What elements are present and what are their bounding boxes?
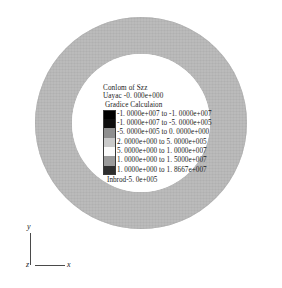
legend-band-label: -1. 0000e+007 to -5. 0000e+005	[116, 119, 212, 128]
contour-plot-screenshot: Conlom of Szz Uayac -0. 000e+000 Gradice…	[0, 0, 282, 288]
legend-band-row: 5. 0000e+000 to 1. 0000e+007	[103, 147, 235, 156]
legend-band-row: -1. 0000e+007 to -1. 0000e+007	[103, 110, 235, 119]
legend-band-swatch	[103, 138, 116, 147]
axis-line-y	[30, 233, 31, 265]
axis-label-y: y	[27, 223, 31, 231]
legend-band-swatch	[103, 128, 116, 137]
legend-band-row: 2. 0000e+000 to 5. 0000e+005	[103, 138, 235, 147]
legend-band-row: 1. 0000e+000 to 1. 8667e+007	[103, 166, 235, 175]
legend-band-label: 2. 0000e+000 to 5. 0000e+005	[116, 138, 207, 147]
legend-method-line: Gradice Calculaion	[103, 101, 235, 109]
legend-band-label: -1. 0000e+007 to -1. 0000e+007	[116, 110, 212, 119]
axis-line-x	[35, 265, 65, 266]
legend-band-row: 1. 0000e+000 to 1. 5000e+007	[103, 156, 235, 165]
legend-band-row: -5. 0000e+005 to 0. 0000e+000	[103, 128, 235, 137]
legend-panel: Conlom of Szz Uayac -0. 000e+000 Gradice…	[103, 84, 235, 185]
legend-band-swatch	[103, 110, 116, 119]
legend-band-swatch	[103, 166, 116, 175]
legend-footer: Inbrod-5. 0e+005	[103, 175, 235, 185]
legend-band-label: 1. 0000e+000 to 1. 8667e+007	[116, 166, 207, 175]
legend-band-label: 5. 0000e+000 to 1. 0000e+007	[116, 147, 207, 156]
legend-band-swatch	[103, 147, 116, 156]
legend-band-swatch	[103, 119, 116, 128]
legend-color-scale: -1. 0000e+007 to -1. 0000e+007 -1. 0000e…	[103, 110, 235, 175]
legend-band-row: -1. 0000e+007 to -5. 0000e+005	[103, 119, 235, 128]
legend-band-label: -5. 0000e+005 to 0. 0000e+000	[116, 128, 209, 137]
axis-label-x: x	[67, 261, 71, 269]
legend-band-label: 1. 0000e+000 to 1. 5000e+007	[116, 156, 207, 165]
legend-band-swatch	[103, 156, 116, 165]
axis-label-z: z	[26, 261, 29, 269]
axis-triad: y z x	[22, 222, 80, 274]
legend-title: Conlom of Szz	[103, 84, 235, 92]
legend-value-line: Uayac -0. 000e+000	[103, 92, 235, 100]
